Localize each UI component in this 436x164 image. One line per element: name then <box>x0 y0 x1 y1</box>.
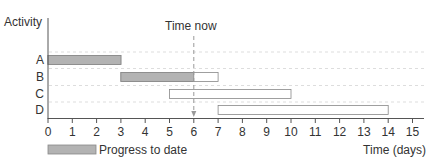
x-tick-label: 8 <box>239 125 246 139</box>
x-tick-label: 6 <box>190 125 197 139</box>
x-tick-label: 10 <box>284 125 298 139</box>
x-tick-label: 4 <box>142 125 149 139</box>
activity-bar-d <box>218 106 388 115</box>
progress-bar-a <box>48 56 121 65</box>
legend-swatch-progress <box>48 145 96 154</box>
time-now-label: Time now <box>165 19 217 33</box>
x-tick-label: 5 <box>166 125 173 139</box>
x-axis-label: Time (days) <box>363 143 426 157</box>
x-tick-label: 9 <box>263 125 270 139</box>
time-now-arrow-icon <box>191 111 196 117</box>
x-tick-label: 7 <box>215 125 222 139</box>
x-tick-label: 12 <box>333 125 347 139</box>
activity-label-b: B <box>36 70 44 84</box>
activity-label-c: C <box>35 87 44 101</box>
x-tick-label: 11 <box>309 125 322 139</box>
x-tick-label: 1 <box>69 125 76 139</box>
activity-bar-c <box>170 90 292 99</box>
y-axis-label: Activity <box>4 15 42 29</box>
x-tick-label: 15 <box>406 125 420 139</box>
x-tick-label: 0 <box>45 125 52 139</box>
gantt-chart: 0123456789101112131415 ABCD Activity Tim… <box>0 0 436 164</box>
x-ticks: 0123456789101112131415 <box>45 118 420 139</box>
progress-bar-b <box>121 73 194 82</box>
legend-label-progress: Progress to date <box>99 143 187 157</box>
x-tick-label: 13 <box>357 125 371 139</box>
x-tick-label: 3 <box>118 125 125 139</box>
x-tick-label: 2 <box>93 125 100 139</box>
x-tick-label: 14 <box>382 125 396 139</box>
activity-label-d: D <box>35 103 44 117</box>
activity-labels: ABCD <box>35 53 44 117</box>
activity-label-a: A <box>36 53 44 67</box>
